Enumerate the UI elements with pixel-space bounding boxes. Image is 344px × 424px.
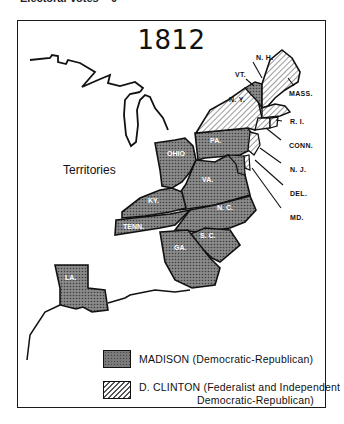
- state-ri: [270, 117, 278, 128]
- label-mass: MASS.: [289, 90, 313, 97]
- territories-label: Territories: [63, 163, 116, 177]
- madison-legend-label: MADISON (Democratic-Republican): [139, 350, 313, 366]
- label-ohio: OHIO: [167, 150, 185, 157]
- label-vt: VT.: [235, 71, 246, 78]
- state-conn: [255, 118, 270, 130]
- madison-swatch: [103, 350, 131, 368]
- label-ky: KY.: [148, 197, 159, 204]
- label-sc: S. C.: [200, 232, 216, 239]
- label-nj: N. J.: [290, 166, 306, 173]
- label-md: MD.: [290, 214, 304, 221]
- clinton-swatch: [103, 381, 131, 399]
- label-ga: GA.: [174, 244, 187, 251]
- label-nh: N. H.: [256, 54, 273, 61]
- clinton-legend-line2: Democratic-Republican): [139, 394, 340, 407]
- northern-border-line: [30, 55, 143, 92]
- label-del: DEL.: [290, 190, 307, 197]
- label-la: LA.: [65, 274, 76, 281]
- label-tenn: TENN.: [123, 223, 144, 230]
- state-mass: [262, 104, 290, 118]
- label-ri: R. I.: [290, 118, 304, 125]
- gulf-coast-line: [108, 290, 190, 303]
- label-conn: CONN.: [289, 142, 313, 149]
- lake-michigan: [124, 92, 168, 146]
- gulf-coast-west: [27, 305, 60, 360]
- label-va: VA.: [202, 176, 213, 183]
- legend-madison: MADISON (Democratic-Republican): [103, 350, 313, 368]
- label-nc: N. C.: [217, 204, 233, 211]
- label-pa: PA.: [210, 137, 221, 144]
- state-la: [55, 265, 108, 312]
- state-nj: [248, 132, 260, 155]
- label-ny: N. Y.: [229, 96, 245, 103]
- legend-clinton: D. CLINTON (Federalist and Independent D…: [103, 381, 340, 407]
- clinton-legend-label: D. CLINTON (Federalist and Independent D…: [139, 381, 340, 407]
- clinton-legend-line1: D. CLINTON (Federalist and Independent: [139, 381, 340, 393]
